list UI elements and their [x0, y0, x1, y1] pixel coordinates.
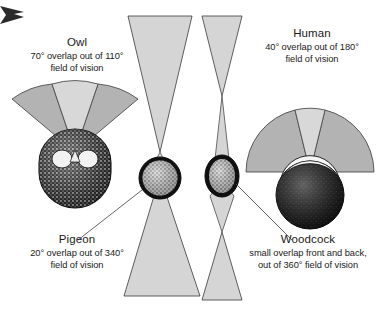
- owl-vision-diagram: [12, 81, 138, 208]
- pigeon-label-title: Pigeon: [2, 233, 152, 247]
- arrow-marker-icon: [0, 6, 24, 24]
- owl-label: Owl 70° overlap out of 110° field of vis…: [2, 36, 152, 74]
- woodcock-head: [205, 155, 239, 197]
- woodcock-upper-field: [202, 16, 242, 96]
- pigeon-label: Pigeon 20° overlap out of 340° field of …: [2, 233, 152, 271]
- human-label: Human 40° overlap out of 180° field of v…: [238, 27, 386, 65]
- pigeon-label-line1: 20° overlap out of 340°: [2, 248, 152, 259]
- human-label-line2: field of vision: [238, 54, 386, 65]
- woodcock-label-title: Woodcock: [230, 233, 386, 247]
- owl-label-line1: 70° overlap out of 110°: [2, 51, 152, 62]
- vision-fields-figure: Owl 70° overlap out of 110° field of vis…: [0, 0, 386, 311]
- human-vision-diagram: [246, 108, 374, 229]
- woodcock-label-line1: small overlap front and back,: [230, 248, 386, 259]
- human-label-title: Human: [238, 27, 386, 41]
- pigeon-label-line2: field of vision: [2, 260, 152, 271]
- owl-head: [39, 129, 111, 208]
- woodcock-label: Woodcock small overlap front and back, o…: [230, 233, 386, 271]
- human-head: [276, 156, 344, 229]
- pigeon-head: [139, 157, 181, 199]
- owl-label-title: Owl: [2, 36, 152, 50]
- human-label-line1: 40° overlap out of 180°: [238, 42, 386, 53]
- woodcock-label-line2: out of 360° field of vision: [230, 260, 386, 271]
- owl-label-line2: field of vision: [2, 63, 152, 74]
